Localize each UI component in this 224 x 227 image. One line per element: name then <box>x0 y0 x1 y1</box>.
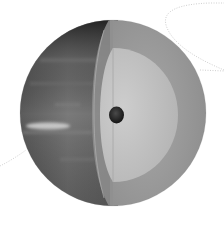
orbit-line-bottom-left <box>0 150 26 166</box>
planet-sphere <box>18 18 210 210</box>
orbit-line-right <box>200 70 224 71</box>
core <box>109 107 124 124</box>
planet-illustration <box>0 0 224 227</box>
